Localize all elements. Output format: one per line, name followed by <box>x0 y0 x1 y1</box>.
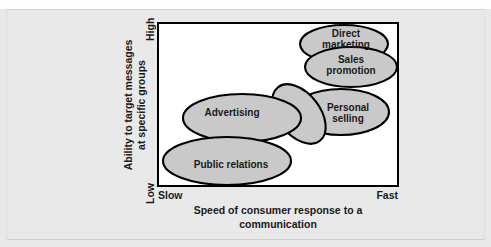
figure-root: Ability to target messages at specific g… <box>0 0 491 247</box>
y-axis-tick-low: Low <box>144 182 156 204</box>
blob-label-direct-marketing-line1: Direct <box>332 28 361 39</box>
y-axis-title-line2: at specific groups <box>135 60 147 150</box>
blob-label-personal-selling-line2: selling <box>332 113 364 124</box>
x-axis-tick-fast: Fast <box>376 189 398 201</box>
x-axis-title-line2: communication <box>239 218 317 230</box>
blob-label-advertising: Advertising <box>204 107 259 118</box>
x-axis-title-line1: Speed of consumer response to a <box>194 204 363 216</box>
blob-label-personal-selling-line1: Personal <box>327 102 369 113</box>
y-axis-title-line1: Ability to target messages <box>122 39 134 170</box>
x-axis-tick-slow: Slow <box>158 189 183 201</box>
y-axis-tick-high: High <box>144 18 156 41</box>
blob-advertising[interactable] <box>183 94 301 142</box>
blob-label-sales-promotion-line1: Sales <box>338 54 365 65</box>
communication-mix-positioning-chart: Ability to target messages at specific g… <box>0 0 491 247</box>
blob-label-public-relations: Public relations <box>194 159 269 170</box>
blob-label-direct-marketing-line2: marketing <box>322 39 370 50</box>
x-axis-title: Speed of consumer response to a communic… <box>194 204 363 230</box>
y-axis-title: Ability to target messages at specific g… <box>122 39 147 170</box>
blob-label-sales-promotion-line2: promotion <box>326 65 375 76</box>
